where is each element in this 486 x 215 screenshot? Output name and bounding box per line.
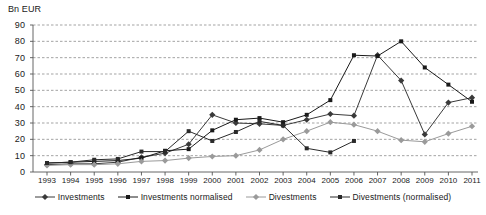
data-point-marker bbox=[280, 136, 286, 142]
data-point-marker bbox=[281, 123, 285, 127]
data-point-marker bbox=[234, 118, 238, 122]
data-point-marker bbox=[163, 150, 167, 154]
data-point-marker bbox=[139, 150, 143, 154]
data-point-marker bbox=[328, 98, 332, 102]
data-point-marker bbox=[45, 161, 49, 165]
data-point-marker bbox=[376, 54, 380, 58]
data-point-marker bbox=[304, 128, 310, 134]
data-point-marker bbox=[256, 147, 262, 153]
data-point-marker bbox=[187, 129, 191, 133]
legend-marker-icon bbox=[118, 192, 138, 202]
legend-item[interactable]: Divestments bbox=[246, 192, 317, 202]
legend-marker-icon bbox=[246, 192, 266, 202]
series-2 bbox=[45, 39, 474, 165]
legend-item-label: Divestments (normalised) bbox=[353, 192, 452, 202]
data-point-marker bbox=[304, 117, 310, 123]
data-point-marker bbox=[42, 194, 48, 200]
data-point-marker bbox=[351, 122, 357, 128]
data-point-marker bbox=[399, 39, 403, 43]
data-point-marker bbox=[126, 195, 130, 199]
data-point-marker bbox=[351, 113, 357, 119]
legend-item-label: Investments bbox=[58, 192, 105, 202]
legend-item-label: Divestments bbox=[269, 192, 317, 202]
data-point-marker bbox=[352, 139, 356, 143]
legend-marker-icon bbox=[330, 192, 350, 202]
data-point-marker bbox=[234, 130, 238, 134]
data-point-marker bbox=[327, 119, 333, 125]
legend-item[interactable]: Divestments (normalised) bbox=[330, 192, 452, 202]
data-point-marker bbox=[187, 147, 191, 151]
legend-item-label: Investments normalised bbox=[141, 192, 233, 202]
data-point-marker bbox=[305, 113, 309, 117]
data-point-marker bbox=[210, 139, 214, 143]
data-point-marker bbox=[328, 150, 332, 154]
data-point-marker bbox=[338, 195, 342, 199]
data-point-marker bbox=[327, 111, 333, 117]
data-point-marker bbox=[233, 153, 239, 159]
data-point-marker bbox=[91, 162, 97, 168]
data-point-marker bbox=[116, 157, 120, 161]
data-point-marker bbox=[445, 131, 451, 137]
data-point-marker bbox=[470, 100, 474, 104]
data-point-marker bbox=[210, 128, 214, 132]
data-point-marker bbox=[92, 158, 96, 162]
data-point-marker bbox=[69, 160, 73, 164]
legend-marker-icon bbox=[35, 192, 55, 202]
data-point-marker bbox=[352, 53, 356, 57]
line-chart: Bn EUR 0102030405060708090 1993199419951… bbox=[0, 0, 486, 215]
chart-legend: InvestmentsInvestments normalisedDivestm… bbox=[0, 192, 486, 202]
data-point-marker bbox=[253, 194, 259, 200]
series-line bbox=[47, 121, 354, 163]
data-point-marker bbox=[469, 123, 475, 129]
data-point-marker bbox=[209, 153, 215, 159]
data-point-marker bbox=[258, 119, 262, 123]
data-point-marker bbox=[423, 65, 427, 69]
series-4 bbox=[45, 119, 356, 165]
legend-item[interactable]: Investments bbox=[35, 192, 105, 202]
data-point-marker bbox=[138, 158, 144, 164]
data-point-marker bbox=[305, 146, 309, 150]
data-point-marker bbox=[398, 137, 404, 143]
data-point-marker bbox=[374, 128, 380, 134]
data-point-marker bbox=[162, 157, 168, 163]
legend-item[interactable]: Investments normalised bbox=[118, 192, 233, 202]
data-point-marker bbox=[446, 83, 450, 87]
series-line bbox=[47, 41, 472, 163]
plot-area bbox=[0, 0, 486, 215]
